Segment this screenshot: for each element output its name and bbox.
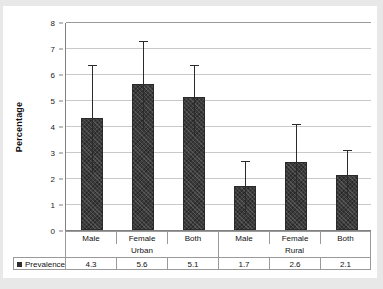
table-row-values: Prevalence4.35.65.11.72.62.1	[13, 257, 371, 270]
table-category-female-4: Female	[269, 231, 320, 244]
y-tick-mark-1	[59, 205, 63, 206]
table-category-male-0: Male	[65, 231, 116, 244]
square-marker-icon	[17, 262, 22, 267]
error-bar-line-1	[143, 41, 144, 129]
error-bar-line-4	[296, 124, 297, 201]
y-tick-label-1: 1	[15, 201, 55, 210]
table-category-male-3: Male	[218, 231, 269, 244]
y-axis-ticks: 012345678	[3, 23, 63, 231]
error-bar-line-3	[245, 161, 246, 214]
error-bar-line-2	[194, 65, 195, 135]
error-bar-cap-top-0	[88, 65, 97, 66]
bar-slot	[66, 23, 117, 230]
error-bar-cap-top-5	[343, 150, 352, 151]
error-bar-cap-top-4	[292, 124, 301, 125]
table-group-rural: Rural	[218, 244, 371, 257]
y-tick-label-5: 5	[15, 97, 55, 106]
data-table: MaleFemaleBothMaleFemaleBoth UrbanRural …	[13, 231, 371, 270]
y-tick-label-6: 6	[15, 71, 55, 80]
error-bar-cap-top-3	[241, 161, 250, 162]
y-tick-mark-4	[59, 127, 63, 128]
error-bar-line-0	[92, 65, 93, 174]
bar-slot	[168, 23, 219, 230]
table-legend-spacer	[13, 231, 65, 244]
table-value-0: 4.3	[65, 257, 116, 270]
table-value-4: 2.6	[269, 257, 320, 270]
y-tick-mark-6	[59, 75, 63, 76]
table-row-categories: MaleFemaleBothMaleFemaleBoth	[13, 231, 371, 244]
chart-panel: Percentage 012345678 MaleFemaleBothMaleF…	[3, 6, 377, 278]
y-tick-label-3: 3	[15, 149, 55, 158]
table-category-both-2: Both	[167, 231, 218, 244]
table-value-1: 5.6	[116, 257, 167, 270]
bar-slot	[321, 23, 372, 230]
y-tick-mark-3	[59, 153, 63, 154]
table-category-both-5: Both	[320, 231, 371, 244]
table-group-spacer	[13, 244, 65, 257]
table-value-3: 1.7	[218, 257, 269, 270]
table-value-5: 2.1	[320, 257, 371, 270]
y-tick-label-8: 8	[15, 19, 55, 28]
table-group-urban: Urban	[65, 244, 218, 257]
screenshot-root: Percentage 012345678 MaleFemaleBothMaleF…	[0, 0, 383, 289]
error-bar-cap-top-1	[139, 41, 148, 42]
table-value-2: 5.1	[167, 257, 218, 270]
bar-slot	[270, 23, 321, 230]
y-tick-label-4: 4	[15, 123, 55, 132]
error-bar-cap-top-2	[190, 65, 199, 66]
y-tick-mark-2	[59, 179, 63, 180]
error-bar-line-5	[347, 150, 348, 198]
y-tick-label-2: 2	[15, 175, 55, 184]
y-tick-mark-7	[59, 49, 63, 50]
table-row-groups: UrbanRural	[13, 244, 371, 257]
bar-slot	[117, 23, 168, 230]
legend-label: Prevalence	[25, 260, 65, 269]
legend-entry: Prevalence	[13, 257, 65, 270]
table-category-female-1: Female	[116, 231, 167, 244]
plot-area	[65, 23, 371, 231]
y-tick-mark-8	[59, 23, 63, 24]
y-tick-label-7: 7	[15, 45, 55, 54]
bar-slot	[219, 23, 270, 230]
y-tick-mark-5	[59, 101, 63, 102]
